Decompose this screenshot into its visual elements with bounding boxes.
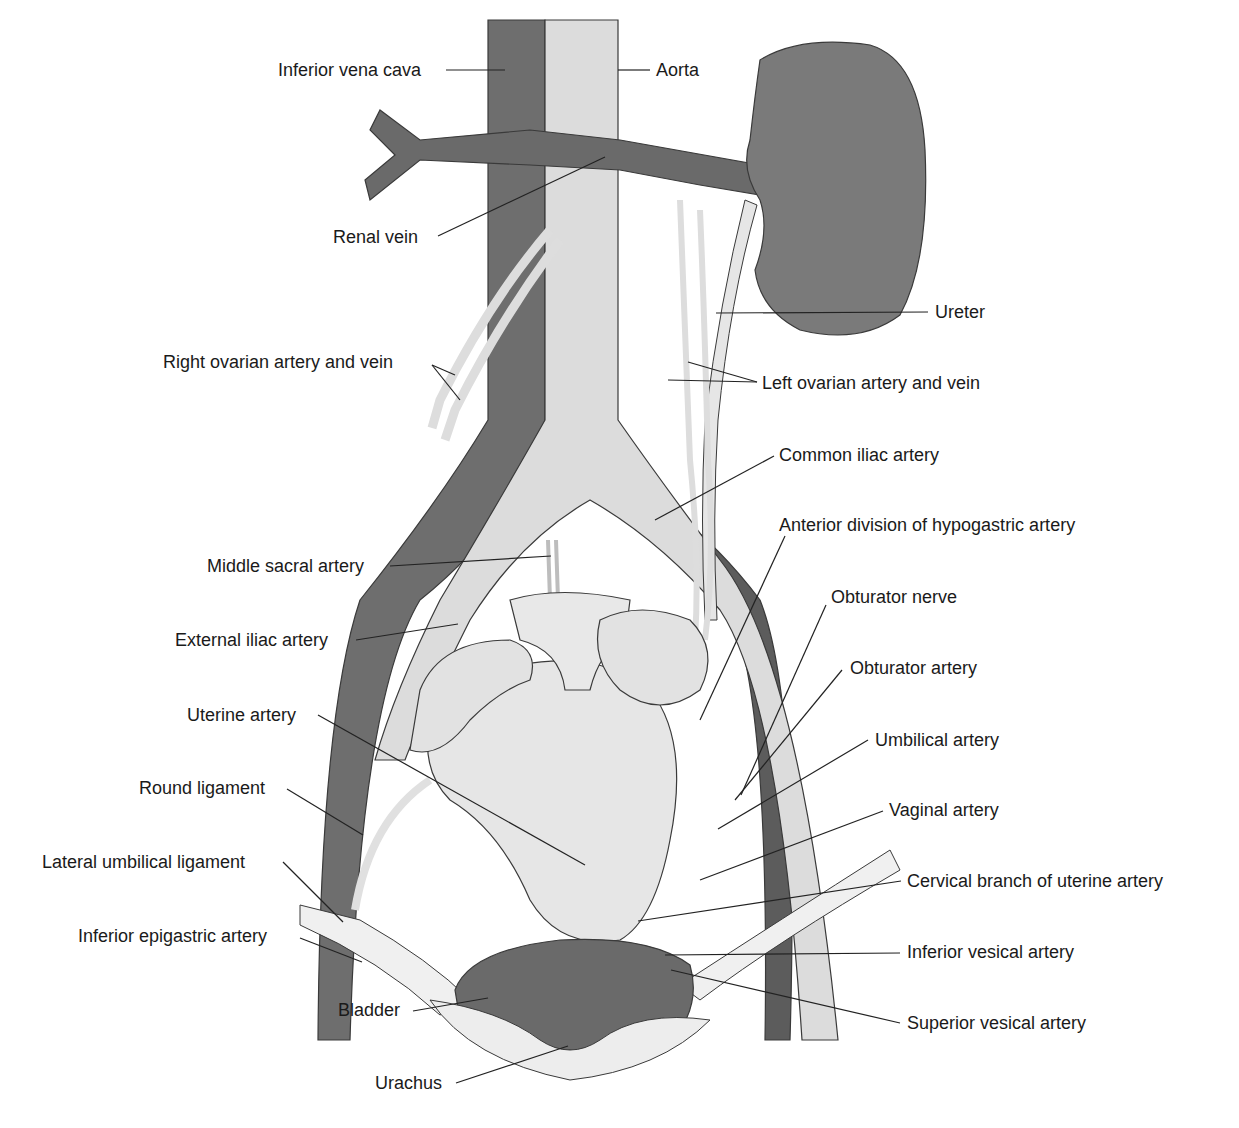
label-right-ovarian-artery-and-vein: Right ovarian artery and vein — [163, 352, 393, 372]
label-ureter: Ureter — [935, 302, 985, 322]
label-superior-vesical-artery: Superior vesical artery — [907, 1013, 1086, 1033]
label-middle-sacral-artery: Middle sacral artery — [207, 556, 364, 576]
kidney-shape — [747, 42, 926, 335]
label-umbilical-artery: Umbilical artery — [875, 730, 999, 750]
middle-sacral-artery-shape — [548, 540, 558, 600]
label-inferior-vena-cava: Inferior vena cava — [278, 60, 421, 80]
label-inferior-epigastric-artery: Inferior epigastric artery — [78, 926, 267, 946]
label-inferior-vesical-artery: Inferior vesical artery — [907, 942, 1074, 962]
label-anterior-division-hypogastric-artery: Anterior division of hypogastric artery — [779, 515, 1075, 535]
label-external-iliac-artery: External iliac artery — [175, 630, 328, 650]
label-obturator-nerve: Obturator nerve — [831, 587, 957, 607]
label-uterine-artery: Uterine artery — [187, 705, 296, 725]
label-vaginal-artery: Vaginal artery — [889, 800, 999, 820]
label-cervical-branch-uterine-artery: Cervical branch of uterine artery — [907, 871, 1163, 891]
label-round-ligament: Round ligament — [139, 778, 265, 798]
label-common-iliac-artery: Common iliac artery — [779, 445, 939, 465]
label-lateral-umbilical-ligament: Lateral umbilical ligament — [42, 852, 245, 872]
label-aorta: Aorta — [656, 60, 699, 80]
label-obturator-artery: Obturator artery — [850, 658, 977, 678]
label-left-ovarian-artery-and-vein: Left ovarian artery and vein — [762, 373, 980, 393]
label-bladder: Bladder — [338, 1000, 400, 1020]
pelvic-vasculature-diagram: Inferior vena cavaAortaRenal veinUreterR… — [0, 0, 1239, 1128]
label-urachus: Urachus — [375, 1073, 442, 1093]
label-renal-vein: Renal vein — [333, 227, 418, 247]
